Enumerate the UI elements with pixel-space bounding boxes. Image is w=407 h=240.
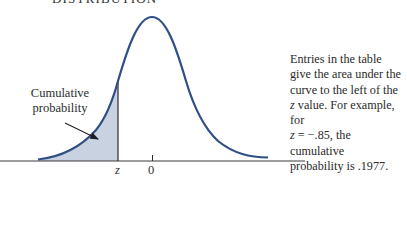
note-line-3: curve to the left of the xyxy=(290,83,407,98)
note-line-5-text: = −.85, the cumulative xyxy=(290,128,351,157)
note-line-4: z value. For example, for xyxy=(290,98,407,129)
note-line-5: z = −.85, the cumulative xyxy=(290,128,407,159)
explanatory-note: Entries in the table give the area under… xyxy=(290,52,407,174)
note-line-2: give the area under the xyxy=(290,67,407,82)
note-line-6: probability is .1977. xyxy=(290,159,407,174)
label-line-1: Cumulative xyxy=(17,86,103,101)
cumulative-probability-label: Cumulative probability xyxy=(17,86,103,116)
zero-tick-label: 0 xyxy=(148,163,154,178)
z-tick-label: z xyxy=(115,163,120,178)
note-line-4-text: value. For example, for xyxy=(290,98,395,127)
note-line-1: Entries in the table xyxy=(290,52,407,67)
pointer-arrow xyxy=(65,123,98,139)
label-line-2: probability xyxy=(17,101,103,116)
